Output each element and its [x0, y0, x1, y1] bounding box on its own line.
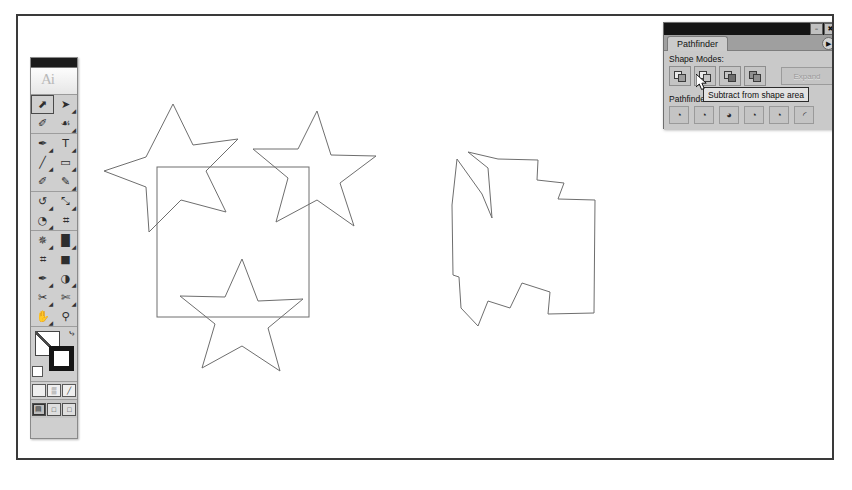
- flyout-arrow-icon: ◢: [71, 185, 76, 191]
- minus-back-button[interactable]: ◜: [794, 106, 814, 124]
- illustrator-logo-glyph: Ai: [41, 71, 54, 88]
- color-mode-button[interactable]: [32, 384, 46, 397]
- blend-tool[interactable]: ◑◢: [54, 269, 77, 288]
- flyout-arrow-icon: ◢: [71, 127, 76, 133]
- artboard-canvas[interactable]: Ai ⬈ ➤◢ ✐ ☙◢ ✒◢ T◢ ╱◢ ▭◢ ✐ ✎◢ ↺◢ ⤡◢ ◔◢ ⌗: [18, 16, 832, 458]
- flyout-arrow-icon: ◢: [48, 224, 53, 230]
- direct-selection-tool[interactable]: ➤◢: [54, 95, 77, 114]
- fill-stroke-controls: ⤷: [31, 327, 77, 381]
- rectangle-tool[interactable]: ▭◢: [54, 153, 77, 172]
- arrow-pointer-icon: [696, 74, 710, 92]
- merge-button[interactable]: ◕: [719, 106, 739, 124]
- symbol-sprayer-tool[interactable]: ✵◢: [31, 231, 54, 250]
- palette-menu-icon[interactable]: ▶: [822, 37, 832, 50]
- standard-screen-mode-button[interactable]: ▤: [32, 403, 46, 416]
- lasso-tool[interactable]: ☙◢: [54, 114, 77, 133]
- tool-group-selection: ⬈ ➤◢ ✐ ☙◢: [31, 95, 77, 134]
- pathfinder-palette[interactable]: – ✖ Pathfinder ▶ Shape Modes:: [663, 22, 832, 129]
- add-to-shape-area-button[interactable]: [669, 66, 691, 86]
- outline-button[interactable]: ◔: [769, 106, 789, 124]
- shape-modes-row: Expand: [669, 66, 832, 86]
- paintbrush-tool[interactable]: ✐: [31, 172, 54, 191]
- intersect-shape-areas-button[interactable]: [719, 66, 741, 86]
- minimize-button[interactable]: –: [810, 23, 823, 35]
- scissors-tool[interactable]: ✄◢: [54, 288, 77, 307]
- gradient-mode-button[interactable]: ▒: [47, 384, 61, 397]
- palette-tabbar: Pathfinder ▶: [664, 35, 832, 51]
- toolbox-titlebar[interactable]: [31, 58, 77, 68]
- subtract-result-path: [452, 152, 595, 326]
- shape-modes-label: Shape Modes:: [669, 54, 832, 64]
- close-button[interactable]: ✖: [824, 23, 832, 35]
- zoom-tool[interactable]: ⚲: [54, 307, 77, 326]
- tooltip: Subtract from shape area: [703, 87, 809, 102]
- mesh-tool[interactable]: ⌗: [31, 250, 54, 269]
- full-screen-mode-with-menu-button[interactable]: □: [47, 403, 61, 416]
- tab-pathfinder[interactable]: Pathfinder: [667, 36, 728, 51]
- document-window: Ai ⬈ ➤◢ ✐ ☙◢ ✒◢ T◢ ╱◢ ▭◢ ✐ ✎◢ ↺◢ ⤡◢ ◔◢ ⌗: [16, 14, 834, 460]
- exclude-shape-icon: [749, 71, 761, 82]
- exclude-overlapping-shape-areas-button[interactable]: [744, 66, 766, 86]
- pencil-tool[interactable]: ✎◢: [54, 172, 77, 191]
- expand-button-label: Expand: [793, 72, 820, 81]
- add-shape-icon: [674, 71, 686, 82]
- free-transform-tool[interactable]: ⌗: [54, 211, 77, 230]
- screen-mode-row: ▤ □ □: [31, 399, 77, 418]
- expand-button[interactable]: Expand: [781, 67, 832, 85]
- hand-tool[interactable]: ✋◢: [31, 307, 54, 326]
- swap-fill-stroke-icon[interactable]: ⤷: [69, 328, 74, 339]
- slice-tool[interactable]: ✂◢: [31, 288, 54, 307]
- intersect-shape-icon: [724, 71, 736, 82]
- square-path: [157, 167, 309, 317]
- trim-button[interactable]: ◔: [694, 106, 714, 124]
- none-mode-button[interactable]: ╱: [62, 384, 76, 397]
- tool-group-symbol-graph: ✵◢ █◢ ⌗ ■ ✒◢ ◑◢ ✂◢ ✄◢ ✋◢ ⚲: [31, 231, 77, 327]
- full-screen-mode-button[interactable]: □: [62, 403, 76, 416]
- column-graph-tool[interactable]: █◢: [54, 231, 77, 250]
- gradient-tool[interactable]: ■: [54, 250, 77, 269]
- tool-group-draw: ✒◢ T◢ ╱◢ ▭◢ ✐ ✎◢: [31, 134, 77, 192]
- pen-tool[interactable]: ✒◢: [31, 134, 54, 153]
- tooltip-text: Subtract from shape area: [708, 90, 804, 100]
- left-artwork-group: [104, 104, 376, 371]
- tool-group-transform: ↺◢ ⤡◢ ◔◢ ⌗: [31, 192, 77, 231]
- magic-wand-tool[interactable]: ✐: [31, 114, 54, 133]
- star-top-right-path: [253, 111, 376, 226]
- pathfinders-row: ◔ ◔ ◕ ◔ ◔ ◜: [669, 106, 832, 124]
- divide-button[interactable]: ◔: [669, 106, 689, 124]
- rotate-tool[interactable]: ↺◢: [31, 192, 54, 211]
- right-artwork-group: [452, 152, 595, 326]
- toolbox-palette[interactable]: Ai ⬈ ➤◢ ✐ ☙◢ ✒◢ T◢ ╱◢ ▭◢ ✐ ✎◢ ↺◢ ⤡◢ ◔◢ ⌗: [30, 57, 78, 439]
- warp-tool[interactable]: ◔◢: [31, 211, 54, 230]
- stroke-swatch[interactable]: [49, 346, 74, 371]
- type-tool[interactable]: T◢: [54, 134, 77, 153]
- selection-tool[interactable]: ⬈: [31, 95, 54, 114]
- star-top-left-path: [104, 104, 238, 232]
- fill-mode-row: ▒ ╱: [31, 381, 77, 399]
- flyout-arrow-icon: ◢: [48, 320, 53, 326]
- toolbox-logo: Ai: [31, 68, 77, 95]
- palette-titlebar[interactable]: – ✖: [664, 23, 832, 35]
- crop-button[interactable]: ◔: [744, 106, 764, 124]
- star-bottom-path: [180, 259, 303, 371]
- default-fill-stroke-icon[interactable]: [32, 366, 43, 377]
- scale-tool[interactable]: ⤡◢: [54, 192, 77, 211]
- tab-pathfinder-label: Pathfinder: [677, 39, 718, 49]
- eyedropper-tool[interactable]: ✒◢: [31, 269, 54, 288]
- line-segment-tool[interactable]: ╱◢: [31, 153, 54, 172]
